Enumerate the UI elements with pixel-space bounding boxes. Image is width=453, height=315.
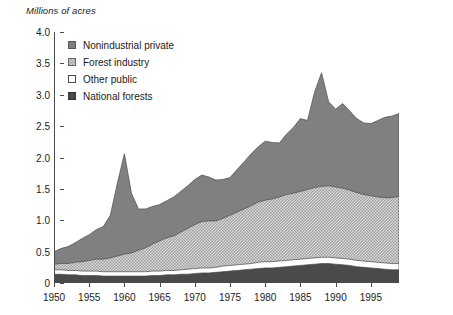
x-axis: 1950195519601965197019751980198519901995: [54, 283, 399, 311]
legend-label: National forests: [83, 91, 152, 102]
x-axis-tick-label: 1980: [254, 292, 276, 303]
legend-label: Nonindustrial private: [83, 40, 174, 51]
y-axis: 00.51.01.52.02.53.03.54.0: [6, 32, 50, 283]
x-axis-tick-mark: [300, 283, 301, 287]
y-axis-tick-label: 1.0: [10, 215, 50, 226]
chart-legend: Nonindustrial private Forest industry Ot…: [68, 37, 174, 105]
forest-industry-swatch-icon: [68, 58, 76, 66]
y-axis-tick-label: 0.5: [10, 246, 50, 257]
x-axis-tick-label: 1995: [360, 292, 382, 303]
x-axis-tick-label: 1955: [78, 292, 100, 303]
legend-item-nonindustrial-private: Nonindustrial private: [68, 37, 174, 53]
x-axis-tick-mark: [265, 283, 266, 287]
legend-item-national-forests: National forests: [68, 88, 174, 104]
nonindustrial-private-swatch-icon: [68, 41, 76, 49]
y-axis-tick-label: 0: [10, 278, 50, 289]
x-axis-tick-label: 1970: [184, 292, 206, 303]
x-axis-tick-mark: [124, 283, 125, 287]
national-forests-swatch-icon: [68, 92, 76, 100]
y-axis-title: Millions of acres: [26, 5, 96, 16]
x-axis-tick-mark: [89, 283, 90, 287]
y-axis-tick-label: 3.0: [10, 89, 50, 100]
other-public-swatch-icon: [68, 75, 76, 83]
x-axis-tick-mark: [336, 283, 337, 287]
x-axis-tick-mark: [195, 283, 196, 287]
legend-label: Forest industry: [83, 57, 149, 68]
x-axis-tick-label: 1965: [148, 292, 170, 303]
y-axis-tick-label: 3.5: [10, 58, 50, 69]
x-axis-tick-mark: [230, 283, 231, 287]
x-axis-tick-label: 1960: [113, 292, 135, 303]
legend-item-forest-industry: Forest industry: [68, 54, 174, 70]
legend-label: Other public: [83, 74, 137, 85]
x-axis-tick-label: 1985: [289, 292, 311, 303]
y-axis-tick-label: 1.5: [10, 183, 50, 194]
legend-item-other-public: Other public: [68, 71, 174, 87]
x-axis-tick-mark: [371, 283, 372, 287]
x-axis-tick-label: 1975: [219, 292, 241, 303]
y-axis-tick-label: 2.0: [10, 152, 50, 163]
x-axis-tick-mark: [54, 283, 55, 287]
x-axis-tick-label: 1950: [43, 292, 65, 303]
x-axis-tick-mark: [160, 283, 161, 287]
y-axis-tick-label: 2.5: [10, 121, 50, 132]
y-axis-tick-label: 4.0: [10, 27, 50, 38]
x-axis-tick-label: 1990: [325, 292, 347, 303]
